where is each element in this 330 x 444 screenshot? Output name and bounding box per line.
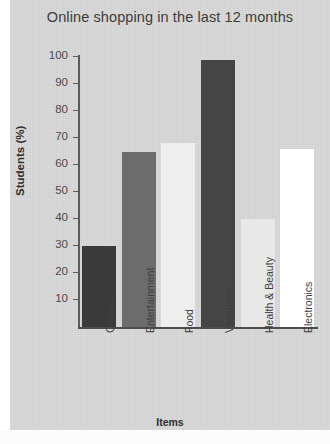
y-axis-tick-label: 40	[55, 210, 68, 225]
plot-area: 102030405060708090100	[79, 57, 317, 327]
y-axis-tick-label: 80	[55, 102, 68, 117]
x-axis-category-label: Electronics	[302, 282, 314, 333]
x-axis-category-label: Clothes	[104, 297, 116, 333]
page-margin-left	[0, 0, 10, 444]
y-axis-tick: 60	[73, 164, 79, 165]
y-axis-tick: 50	[73, 191, 79, 192]
x-axis-category-label: Entertainment	[144, 268, 156, 333]
y-axis-tick: 90	[73, 83, 79, 84]
y-axis-tick-label: 70	[55, 129, 68, 144]
y-axis-tick: 80	[73, 110, 79, 111]
bar-chart-figure: Online shopping in the last 12 months St…	[0, 0, 330, 444]
x-axis-category-label: Food	[183, 309, 195, 333]
x-axis-title: Items	[10, 416, 330, 428]
y-axis-tick: 20	[73, 272, 79, 273]
bar	[161, 143, 195, 327]
page-margin-bottom	[0, 430, 330, 444]
y-axis-tick: 30	[73, 245, 79, 246]
chart-title: Online shopping in the last 12 months	[10, 9, 330, 25]
y-axis-tick: 40	[73, 218, 79, 219]
x-axis-category-label: Vacations	[223, 288, 235, 333]
y-axis-tick-label: 30	[55, 237, 68, 252]
x-axis-category-label: Health & Beauty	[263, 257, 275, 333]
y-axis-tick-label: 10	[55, 291, 68, 306]
y-axis-title: Students (%)	[14, 126, 26, 196]
y-axis-tick: 100	[73, 56, 79, 57]
y-axis-tick-label: 20	[55, 264, 68, 279]
y-axis-tick-label: 90	[55, 75, 68, 90]
y-axis-tick-label: 50	[55, 183, 68, 198]
y-axis-tick: 10	[73, 299, 79, 300]
y-axis-tick-label: 100	[49, 48, 68, 63]
y-axis-tick-label: 60	[55, 156, 68, 171]
y-axis-tick: 70	[73, 137, 79, 138]
